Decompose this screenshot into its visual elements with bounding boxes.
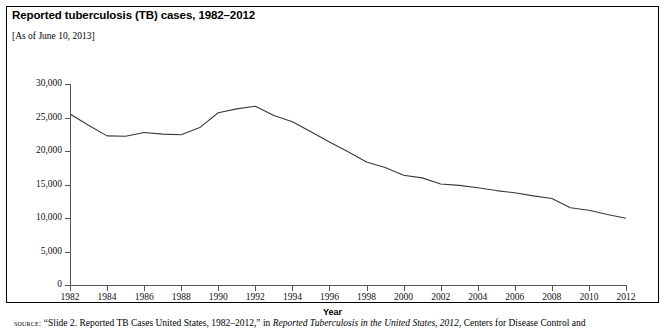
x-tick-1986 xyxy=(144,286,145,291)
y-tick-label-25000: 25,000 xyxy=(18,113,62,123)
y-tick-label-30000: 30,000 xyxy=(18,79,62,89)
x-tick-label-1990: 1990 xyxy=(198,293,238,303)
source-text-part-2: , Centers for Disease Control and xyxy=(459,318,586,328)
x-tick-1994 xyxy=(292,286,293,291)
x-tick-2010 xyxy=(589,286,590,291)
y-tick-label-0: 0 xyxy=(18,280,62,290)
x-tick-label-2012: 2012 xyxy=(606,293,646,303)
x-tick-label-1996: 1996 xyxy=(309,293,349,303)
x-tick-label-1992: 1992 xyxy=(235,293,275,303)
x-tick-label-1984: 1984 xyxy=(87,293,127,303)
x-tick-label-1998: 1998 xyxy=(347,293,387,303)
x-tick-1996 xyxy=(329,286,330,291)
y-axis-tick-labels: 05,00010,00015,00020,00025,00030,000 xyxy=(14,0,62,335)
x-tick-1984 xyxy=(107,286,108,291)
source-text-part-1: “Slide 2. Reported TB Cases United State… xyxy=(44,318,273,328)
x-tick-label-1994: 1994 xyxy=(272,293,312,303)
x-tick-2008 xyxy=(552,286,553,291)
y-tick-label-20000: 20,000 xyxy=(18,146,62,156)
x-tick-label-1982: 1982 xyxy=(50,293,90,303)
x-tick-1992 xyxy=(255,286,256,291)
x-axis-title: Year xyxy=(0,307,665,317)
x-tick-1998 xyxy=(367,286,368,291)
x-tick-2012 xyxy=(626,286,627,291)
x-tick-2006 xyxy=(515,286,516,291)
source-note: source: “Slide 2. Reported TB Cases Unit… xyxy=(14,318,659,330)
x-tick-2002 xyxy=(441,286,442,291)
x-tick-label-2002: 2002 xyxy=(421,293,461,303)
y-tick-label-15000: 15,000 xyxy=(18,180,62,190)
x-tick-1990 xyxy=(218,286,219,291)
source-publication-title: Reported Tuberculosis in the United Stat… xyxy=(273,318,459,328)
x-tick-1982 xyxy=(70,286,71,291)
x-tick-2000 xyxy=(404,286,405,291)
tb-cases-line-series xyxy=(70,84,626,285)
y-tick-label-10000: 10,000 xyxy=(18,213,62,223)
x-tick-label-2006: 2006 xyxy=(495,293,535,303)
figure-page: Reported tuberculosis (TB) cases, 1982–2… xyxy=(0,0,665,335)
x-tick-label-1986: 1986 xyxy=(124,293,164,303)
source-label: source: xyxy=(14,318,41,328)
x-axis-line xyxy=(70,285,627,286)
x-tick-label-1988: 1988 xyxy=(161,293,201,303)
x-tick-label-2010: 2010 xyxy=(569,293,609,303)
x-tick-label-2000: 2000 xyxy=(384,293,424,303)
x-tick-2004 xyxy=(478,286,479,291)
plot-area xyxy=(70,84,626,285)
x-tick-label-2004: 2004 xyxy=(458,293,498,303)
x-tick-label-2008: 2008 xyxy=(532,293,572,303)
x-tick-1988 xyxy=(181,286,182,291)
y-tick-label-5000: 5,000 xyxy=(18,247,62,257)
